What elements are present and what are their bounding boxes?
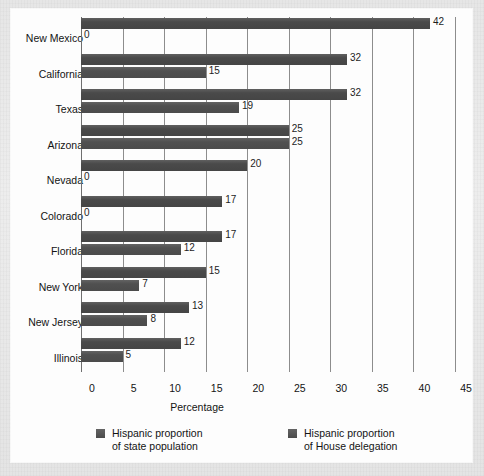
bar-row: 200 <box>81 159 455 195</box>
legend-swatch-state-population <box>96 429 105 438</box>
x-axis-title: Percentage <box>92 401 466 413</box>
x-tick-label-0: 0 <box>89 381 95 395</box>
bar-value-label: 32 <box>347 86 361 100</box>
category-label-illinois: Illinois <box>54 352 83 365</box>
x-tick-label-30: 30 <box>335 381 347 395</box>
bar[interactable] <box>81 138 289 149</box>
bar-row: 125 <box>81 337 455 373</box>
bar-row: 138 <box>81 301 455 337</box>
chart-legend: Hispanic proportion of state population … <box>92 427 466 461</box>
bar[interactable] <box>81 18 430 29</box>
x-tick-label-20: 20 <box>252 381 264 395</box>
bar-rows: 4203215321925252001701712157138125 <box>81 17 455 372</box>
bar[interactable] <box>81 244 181 255</box>
category-label-new-york: New York <box>39 281 83 294</box>
bar-value-label: 15 <box>206 264 220 278</box>
bar-value-label: 20 <box>247 157 261 171</box>
bar-value-label: 7 <box>139 277 148 291</box>
bar-value-label: 19 <box>239 99 253 113</box>
bar-value-label: 0 <box>81 170 90 184</box>
x-tick-label-10: 10 <box>169 381 181 395</box>
category-label-florida: Florida <box>51 245 83 258</box>
bar-value-label: 17 <box>222 228 236 242</box>
category-label-arizona: Arizona <box>47 139 83 152</box>
x-tick-label-25: 25 <box>294 381 306 395</box>
bar[interactable] <box>81 67 206 78</box>
category-label-california: California <box>39 68 83 81</box>
bar-value-label: 15 <box>206 64 220 78</box>
bar-row: 157 <box>81 266 455 302</box>
x-tick-label-45: 45 <box>460 381 472 395</box>
x-axis-title-text: Percentage <box>170 401 224 413</box>
bar[interactable] <box>81 102 239 113</box>
bar-value-label: 25 <box>289 122 303 136</box>
legend-item-house-delegation: Hispanic proportion of House delegation <box>288 427 397 453</box>
bar[interactable] <box>81 196 222 207</box>
legend-label-state-population: Hispanic proportion of state population <box>112 427 202 453</box>
bar[interactable] <box>81 125 289 136</box>
bar[interactable] <box>81 280 139 291</box>
x-axis-ticks: 051015202530354045 <box>92 381 466 399</box>
figure-root: New MexicoCaliforniaTexasArizonaNevadaCo… <box>0 0 484 476</box>
gridline-45 <box>455 17 456 372</box>
bar-row: 1712 <box>81 230 455 266</box>
bar-value-label: 0 <box>81 206 90 220</box>
bar-value-label: 32 <box>347 51 361 65</box>
category-label-texas: Texas <box>56 103 83 116</box>
bar[interactable] <box>81 302 189 313</box>
category-label-colorado: Colorado <box>40 210 83 223</box>
bar-row: 3219 <box>81 88 455 124</box>
bar-value-label: 0 <box>81 28 90 42</box>
bar-row: 170 <box>81 195 455 231</box>
bar-value-label: 17 <box>222 193 236 207</box>
bar-row: 420 <box>81 17 455 53</box>
bar-value-label: 42 <box>430 15 444 29</box>
bar-value-label: 12 <box>181 241 195 255</box>
bar-row: 3215 <box>81 53 455 89</box>
bar-value-label: 5 <box>123 348 132 362</box>
legend-swatch-house-delegation <box>288 429 297 438</box>
legend-item-state-population: Hispanic proportion of state population <box>96 427 202 453</box>
bar-value-label: 13 <box>189 299 203 313</box>
bar[interactable] <box>81 231 222 242</box>
bar-value-label: 8 <box>147 312 156 326</box>
x-tick-label-15: 15 <box>211 381 223 395</box>
category-axis: New MexicoCaliforniaTexasArizonaNevadaCo… <box>11 26 87 381</box>
plot-area: 4203215321925252001701712157138125 <box>81 17 455 372</box>
category-label-new-jersey: New Jersey <box>28 316 83 329</box>
legend-label-house-delegation: Hispanic proportion of House delegation <box>304 427 397 453</box>
bar[interactable] <box>81 89 347 100</box>
x-tick-label-40: 40 <box>419 381 431 395</box>
bar[interactable] <box>81 315 147 326</box>
bar-value-label: 12 <box>181 335 195 349</box>
x-tick-label-35: 35 <box>377 381 389 395</box>
bar-value-label: 25 <box>289 135 303 149</box>
x-tick-label-5: 5 <box>131 381 137 395</box>
category-label-new-mexico: New Mexico <box>26 32 83 45</box>
chart-card: New MexicoCaliforniaTexasArizonaNevadaCo… <box>11 9 472 462</box>
bar-row: 2525 <box>81 124 455 160</box>
category-label-nevada: Nevada <box>47 174 83 187</box>
bar[interactable] <box>81 160 247 171</box>
bar[interactable] <box>81 351 123 362</box>
